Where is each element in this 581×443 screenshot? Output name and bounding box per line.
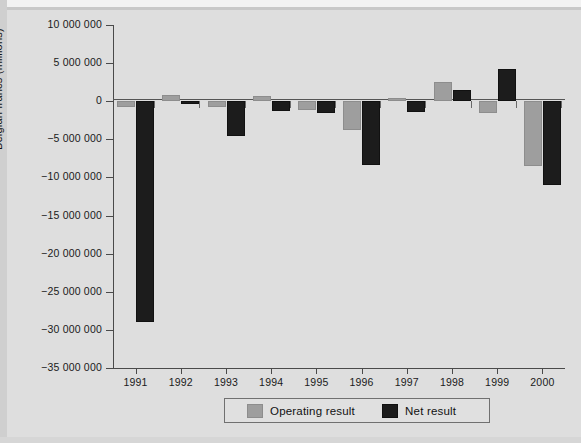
y-tick-label: −5 000 000 <box>0 132 102 144</box>
y-axis-line <box>113 25 114 368</box>
bar-net-result-1996 <box>362 101 380 165</box>
x-tick-label: 1993 <box>203 376 249 388</box>
y-tick-mark <box>106 101 114 102</box>
x-tick-mark <box>181 368 182 374</box>
page-edge-bottom <box>0 437 581 443</box>
bar-net-result-1997 <box>407 101 425 112</box>
x-tick-label: 1991 <box>113 376 159 388</box>
y-tick-mark <box>106 139 114 140</box>
y-tick-mark <box>106 177 114 178</box>
bar-operating-result-1993 <box>208 101 226 107</box>
y-tick-mark <box>106 216 114 217</box>
chart-legend: Operating result Net result <box>224 398 490 423</box>
chart-figure: Belgian francs (millions) 10 000 0005 00… <box>0 0 581 443</box>
bar-operating-result-1992 <box>162 95 180 101</box>
x-tick-label: 1998 <box>429 376 475 388</box>
bar-net-result-1999 <box>498 69 516 101</box>
legend-label-net-result: Net result <box>405 405 456 417</box>
y-tick-label: 0 <box>0 94 102 106</box>
y-tick-label: −15 000 000 <box>0 209 102 221</box>
x-tick-mark <box>497 368 498 374</box>
x-tick-mark <box>136 368 137 374</box>
y-tick-mark <box>106 63 114 64</box>
zero-line-minor-tick <box>561 101 562 108</box>
bar-operating-result-2000 <box>524 101 542 166</box>
x-tick-mark <box>226 368 227 374</box>
bar-net-result-1992 <box>181 101 199 104</box>
zero-line-minor-tick <box>335 101 336 108</box>
x-tick-mark <box>407 368 408 374</box>
bar-operating-result-1994 <box>253 96 271 101</box>
x-tick-mark <box>452 368 453 374</box>
bar-net-result-1998 <box>453 90 471 101</box>
x-tick-label: 1992 <box>158 376 204 388</box>
x-tick-mark <box>271 368 272 374</box>
y-tick-label: −35 000 000 <box>0 361 102 373</box>
y-tick-label: −25 000 000 <box>0 285 102 297</box>
page-edge-top <box>0 0 581 7</box>
y-tick-label: −20 000 000 <box>0 247 102 259</box>
zero-line-minor-tick <box>245 101 246 108</box>
x-tick-label: 1997 <box>384 376 430 388</box>
bar-net-result-1991 <box>136 101 154 322</box>
bar-operating-result-1998 <box>434 82 452 101</box>
zero-line-minor-tick <box>471 101 472 108</box>
bar-operating-result-1997 <box>388 98 406 101</box>
x-tick-label: 1994 <box>248 376 294 388</box>
bar-net-result-2000 <box>543 101 561 185</box>
x-tick-mark <box>542 368 543 374</box>
legend-swatch-net-result <box>382 404 398 418</box>
y-tick-label: 10 000 000 <box>0 18 102 30</box>
legend-label-operating-result: Operating result <box>270 405 355 417</box>
y-tick-mark <box>106 368 114 369</box>
bar-operating-result-1999 <box>479 101 497 112</box>
legend-item-net-result: Net result <box>382 404 456 418</box>
page-edge-top-shadow <box>0 7 581 10</box>
legend-item-operating-result: Operating result <box>247 404 355 418</box>
x-tick-mark <box>362 368 363 374</box>
bar-operating-result-1996 <box>343 101 361 130</box>
x-tick-label: 1995 <box>293 376 339 388</box>
zero-line-minor-tick <box>290 101 291 108</box>
y-tick-mark <box>106 292 114 293</box>
bar-operating-result-1991 <box>117 101 135 106</box>
zero-line-minor-tick <box>516 101 517 108</box>
legend-swatch-operating-result <box>247 404 263 418</box>
bar-net-result-1993 <box>227 101 245 135</box>
x-tick-label: 1996 <box>339 376 385 388</box>
x-tick-label: 2000 <box>519 376 565 388</box>
x-tick-label: 1999 <box>474 376 520 388</box>
y-tick-label: 5 000 000 <box>0 56 102 68</box>
y-tick-mark <box>106 25 114 26</box>
y-tick-label: −30 000 000 <box>0 323 102 335</box>
bar-operating-result-1995 <box>298 101 316 110</box>
x-tick-mark <box>316 368 317 374</box>
zero-line-minor-tick <box>380 101 381 108</box>
y-tick-mark <box>106 330 114 331</box>
y-tick-mark <box>106 254 114 255</box>
y-tick-label: −10 000 000 <box>0 170 102 182</box>
bar-net-result-1994 <box>272 101 290 111</box>
zero-line-minor-tick <box>154 101 155 108</box>
bar-net-result-1995 <box>317 101 335 112</box>
